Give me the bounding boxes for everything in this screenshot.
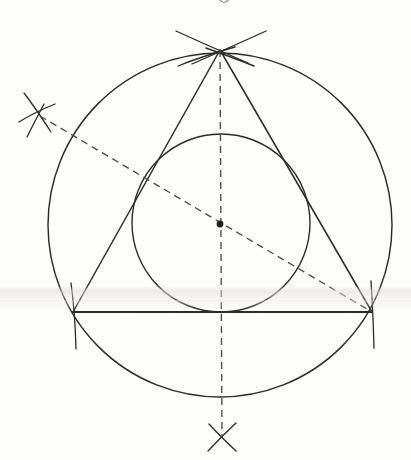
apex-arc-right-upper xyxy=(192,31,266,64)
apex-arc-left-upper xyxy=(176,31,248,63)
geometry-canvas xyxy=(0,0,411,460)
right-vertex-tick-mark xyxy=(371,281,374,348)
dashed-vertical-axis xyxy=(220,50,222,437)
upper-left-cross-stroke-b xyxy=(19,104,55,122)
triangle-side-apex-to-right xyxy=(220,50,372,312)
center-point-dot xyxy=(217,221,224,228)
top-edge-fragment xyxy=(216,0,231,2)
geometric-construction-figure xyxy=(0,0,411,460)
upper-left-cross-stroke-a xyxy=(24,93,51,132)
upper-left-cross-marks xyxy=(19,93,55,137)
apex-arc-cross-marks xyxy=(176,31,266,66)
